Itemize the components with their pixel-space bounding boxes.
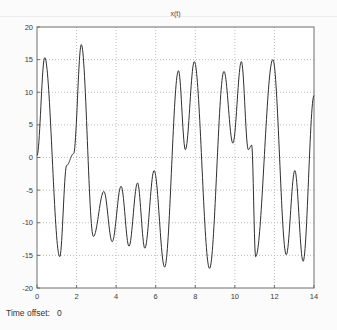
status-bar: Time offset:0 [6, 308, 62, 318]
x-tick-label: 0 [25, 292, 49, 301]
y-tick-label: 5 [0, 120, 33, 129]
plot-canvas [0, 0, 337, 330]
y-tick-label: 15 [0, 55, 33, 64]
x-tick-label: 4 [104, 292, 128, 301]
y-tick-label: 10 [0, 88, 33, 97]
x-tick-label: 12 [262, 292, 286, 301]
x-tick-label: 14 [302, 292, 326, 301]
y-tick-label: -5 [0, 186, 33, 195]
scope-window: x(t) 20151050-5-10-15-20 02468101214 Tim… [0, 0, 337, 330]
x-tick-label: 8 [183, 292, 207, 301]
y-tick-label: 0 [0, 153, 33, 162]
y-tick-label: -10 [0, 218, 33, 227]
x-tick-label: 6 [144, 292, 168, 301]
time-offset-value: 0 [57, 308, 62, 318]
y-tick-label: -15 [0, 251, 33, 260]
x-tick-label: 10 [223, 292, 247, 301]
y-tick-label: 20 [0, 23, 33, 32]
x-tick-label: 2 [65, 292, 89, 301]
time-offset-label: Time offset: [6, 308, 50, 318]
